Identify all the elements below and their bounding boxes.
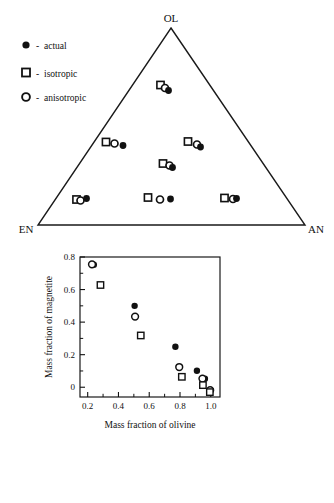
legend-label-actual: actual — [44, 41, 67, 51]
y-axis-label: Mass fraction of magnetite — [44, 276, 54, 378]
legend-entry-isotropic: - isotropic — [22, 69, 77, 79]
marker-actual-dot — [169, 164, 176, 171]
series-actual — [91, 261, 208, 382]
ternary-diagram-panel: OL EN AN - actual - isotropic - — [0, 0, 334, 250]
open-square-icon — [22, 69, 30, 77]
ternary-vertex-label-ol: OL — [164, 12, 179, 24]
scatter-data-points — [89, 261, 214, 395]
marker-actual-dot — [197, 144, 204, 151]
marker-isotropic-square — [221, 194, 228, 201]
marker-isotropic-square — [102, 138, 109, 145]
marker-actual-dot — [83, 195, 90, 202]
marker-anisotropic-circle — [111, 140, 118, 147]
marker-actual-dot — [165, 87, 172, 94]
x-tick-label: 0.2 — [82, 401, 93, 411]
legend-label-isotropic: isotropic — [44, 69, 77, 79]
legend-entry-anisotropic: - anisotropic — [22, 93, 86, 103]
point-isotropic — [179, 374, 185, 380]
y-tick-label: 0.6 — [64, 285, 76, 295]
point-anisotropic — [199, 375, 206, 382]
cluster-bottom-mid — [144, 194, 174, 203]
ternary-vertex-label-an: AN — [308, 223, 324, 235]
legend-dash-actual: - — [36, 41, 39, 51]
open-circle-icon — [22, 93, 30, 101]
point-anisotropic — [89, 261, 96, 268]
legend-dash-isotropic: - — [36, 69, 39, 79]
y-tick-label: 0.8 — [64, 252, 76, 262]
point-actual — [131, 303, 137, 309]
marker-actual-dot — [233, 195, 240, 202]
y-tick-label: 0 — [71, 382, 76, 392]
cluster-top — [157, 81, 172, 94]
point-anisotropic — [176, 364, 183, 371]
point-actual — [194, 368, 200, 374]
point-isotropic — [138, 332, 144, 338]
legend-dash-anisotropic: - — [36, 93, 39, 103]
legend-entry-actual: - actual — [22, 41, 67, 51]
axis-ticks — [80, 257, 211, 397]
x-axis-label: Mass fraction of olivine — [104, 420, 195, 430]
point-isotropic — [200, 382, 206, 388]
series-anisotropic — [89, 261, 214, 394]
cluster-center — [159, 160, 176, 171]
ternary-diagram-svg: OL EN AN - actual - isotropic - — [0, 0, 334, 250]
ternary-vertex-label-en: EN — [19, 223, 34, 235]
cluster-mid-left — [102, 138, 126, 149]
ternary-legend: - actual - isotropic - anisotropic — [22, 41, 86, 103]
point-actual — [172, 343, 178, 349]
filled-circle-icon — [22, 41, 29, 48]
figure-container: OL EN AN - actual - isotropic - — [0, 0, 334, 503]
marker-anisotropic-circle — [157, 196, 164, 203]
marker-anisotropic-circle — [77, 197, 84, 204]
point-anisotropic — [132, 313, 139, 320]
point-isotropic — [97, 282, 103, 288]
marker-actual-dot — [120, 142, 127, 149]
ternary-data-points — [73, 81, 240, 204]
x-tick-label: 0.4 — [113, 401, 125, 411]
y-tick-label: 0.4 — [64, 317, 76, 327]
marker-isotropic-square — [144, 194, 151, 201]
cluster-bottom-left — [73, 195, 90, 204]
marker-isotropic-square — [184, 138, 191, 145]
scatter-plot-panel: 0.20.40.60.81.000.20.40.60.8 Mass fracti… — [0, 243, 334, 503]
x-tick-label: 0.6 — [144, 401, 156, 411]
plot-frame — [80, 257, 220, 397]
point-isotropic — [207, 389, 213, 395]
cluster-bottom-right — [221, 194, 240, 202]
scatter-plot-svg: 0.20.40.60.81.000.20.40.60.8 Mass fracti… — [0, 243, 334, 503]
y-tick-label: 0.2 — [64, 350, 75, 360]
marker-actual-dot — [167, 196, 174, 203]
series-isotropic — [97, 282, 213, 396]
cluster-mid-right — [184, 138, 204, 151]
legend-label-anisotropic: anisotropic — [44, 93, 86, 103]
x-tick-label: 0.8 — [174, 401, 186, 411]
x-tick-label: 1.0 — [205, 401, 217, 411]
